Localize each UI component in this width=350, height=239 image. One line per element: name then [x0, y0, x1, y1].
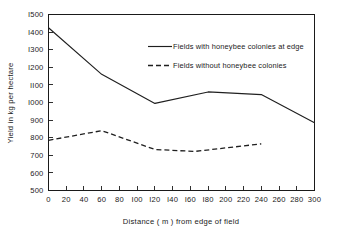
y-ticklabel-1400: I400	[28, 28, 44, 37]
legend-label-without-colonies: Fields without honeybee colonies	[173, 61, 287, 70]
x-ticklabel-180: I80	[203, 195, 214, 204]
y-ticklabel-700: 700	[30, 151, 43, 160]
x-ticklabel-0: 0	[46, 195, 50, 204]
x-axis-ticks	[49, 186, 315, 191]
y-axis-tick-labels: 500600700800900I000II00I200I300I400I500	[28, 10, 44, 195]
y-ticklabel-900: 900	[30, 116, 43, 125]
x-ticklabel-160: I60	[185, 195, 196, 204]
y-axis-title: Yield in kg per hectare	[6, 62, 15, 143]
y-ticklabel-1300: I300	[28, 45, 44, 54]
x-ticklabel-260: 260	[272, 195, 285, 204]
x-ticklabel-100: I00	[132, 195, 143, 204]
series-line-without-colonies	[49, 131, 262, 152]
y-axis-ticks	[49, 15, 53, 191]
x-ticklabel-40: 40	[80, 195, 89, 204]
chart-figure: 500600700800900I000II00I200I300I400I500 …	[0, 0, 350, 239]
x-ticklabel-140: I40	[167, 195, 178, 204]
x-axis-title: Distance ( m ) from edge of field	[123, 217, 239, 226]
plot-frame	[49, 15, 315, 191]
x-ticklabel-60: 60	[97, 195, 106, 204]
y-ticklabel-600: 600	[30, 169, 43, 178]
y-ticklabel-1200: I200	[28, 63, 44, 72]
y-ticklabel-1500: I500	[28, 10, 44, 19]
x-ticklabel-280: 280	[290, 195, 303, 204]
legend-label-with-colonies: Fields with honeybee colonies at edge	[173, 42, 304, 51]
x-ticklabel-80: 80	[115, 195, 124, 204]
x-ticklabel-200: 200	[219, 195, 232, 204]
y-ticklabel-800: 800	[30, 133, 43, 142]
y-ticklabel-500: 500	[30, 186, 43, 195]
x-ticklabel-300: 300	[308, 195, 321, 204]
chart-legend: Fields with honeybee colonies at edge Fi…	[148, 42, 304, 70]
x-axis-tick-labels: 020406080I00I20I40I60I802002202402602803…	[46, 195, 321, 204]
x-ticklabel-20: 20	[62, 195, 71, 204]
x-ticklabel-120: I20	[149, 195, 160, 204]
x-ticklabel-220: 220	[237, 195, 250, 204]
x-ticklabel-240: 240	[255, 195, 268, 204]
y-ticklabel-1000: I000	[28, 98, 44, 107]
y-ticklabel-1100: II00	[30, 81, 43, 90]
line-chart-canvas: 500600700800900I000II00I200I300I400I500 …	[0, 0, 350, 239]
